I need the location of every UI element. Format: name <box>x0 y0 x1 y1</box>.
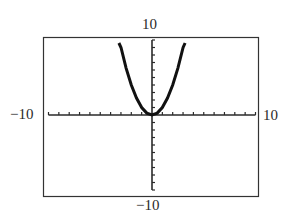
ymax-label: 10 <box>142 17 157 32</box>
xmin-label: −10 <box>10 107 33 122</box>
xmax-label: 10 <box>263 108 278 123</box>
ymin-label: −10 <box>136 198 159 213</box>
graphing-calculator-plot <box>0 0 282 218</box>
viewing-window-frame <box>44 38 259 197</box>
